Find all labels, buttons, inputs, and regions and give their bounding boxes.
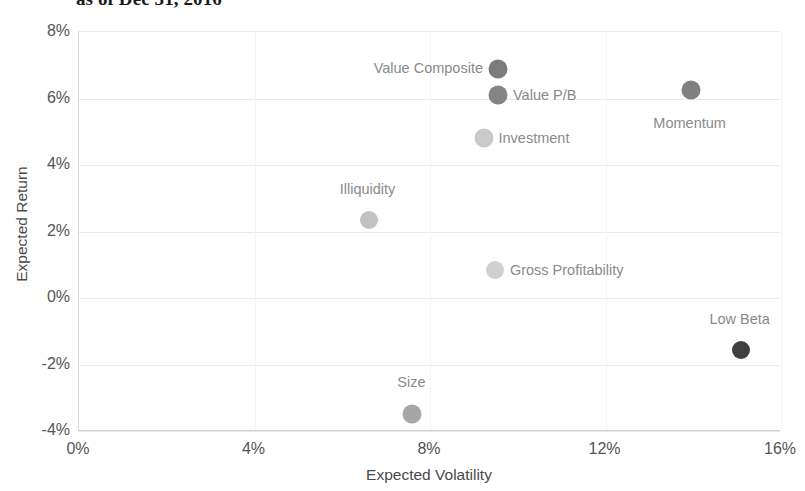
x-tick-label-2: 8%: [417, 440, 440, 458]
x-tick-label-3: 12%: [588, 440, 620, 458]
chart-screenshot: as of Dec 31, 2016 8%6%4%2%0%-2%-4% 0%4%…: [0, 0, 805, 491]
x-tick-label-0: 0%: [66, 440, 89, 458]
data-point-marker[interactable]: [489, 86, 508, 105]
data-point-marker[interactable]: [732, 341, 750, 359]
data-point-label: Low Beta: [709, 311, 769, 327]
data-point-marker[interactable]: [681, 81, 700, 100]
data-point-label: Value P/B: [513, 87, 576, 103]
data-point-marker[interactable]: [474, 129, 493, 148]
data-point-marker[interactable]: [489, 59, 508, 78]
y-tick-label-6: -4%: [8, 421, 70, 439]
gridline-x-2: [430, 32, 431, 430]
data-point-label: Gross Profitability: [510, 262, 624, 278]
data-point-label: Momentum: [653, 115, 726, 131]
data-point-label: Investment: [499, 130, 570, 146]
x-axis-line: [78, 430, 780, 431]
x-axis-title: Expected Volatility: [78, 466, 780, 484]
x-tick-label-1: 4%: [242, 440, 265, 458]
gridline-x-1: [255, 32, 256, 430]
y-axis-tick-labels: 8%6%4%2%0%-2%-4%: [0, 0, 70, 491]
data-point-marker[interactable]: [360, 211, 378, 229]
gridline-x-3: [606, 32, 607, 430]
plot-area: [78, 31, 780, 430]
chart-title: as of Dec 31, 2016: [76, 0, 716, 9]
data-point-label: Value Composite: [374, 60, 483, 76]
data-point-marker[interactable]: [486, 261, 504, 279]
gridline-x-4: [781, 32, 782, 430]
data-point-label: Size: [397, 374, 425, 390]
y-tick-label-0: 8%: [8, 22, 70, 40]
y-tick-label-5: -2%: [8, 355, 70, 373]
gridline-y-6: [79, 431, 780, 432]
data-point-label: Illiquidity: [340, 181, 396, 197]
y-axis-title: Expected Return: [13, 124, 31, 324]
x-tick-label-4: 16%: [764, 440, 796, 458]
data-point-marker[interactable]: [403, 405, 422, 424]
y-tick-label-1: 6%: [8, 89, 70, 107]
